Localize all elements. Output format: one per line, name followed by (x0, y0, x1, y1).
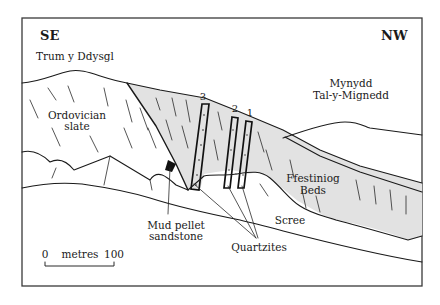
label-sandstone: sandstone (149, 230, 203, 242)
label-scree: Scree (275, 214, 306, 226)
label-beds: Beds (300, 184, 326, 196)
peak-mynydd: Mynydd (330, 77, 373, 89)
scale-start: 0 (42, 248, 49, 260)
direction-nw: NW (381, 28, 408, 43)
scale-end: 100 (104, 248, 124, 260)
peak-trum-y-ddysgl: Trum y Ddysgl (36, 50, 115, 62)
cross-section-svg: SE NW Trum y Ddysgl Mynydd Tal-y-Mignedd… (0, 0, 440, 305)
scale-unit: metres (61, 248, 98, 260)
quartzite-number-1: 1 (247, 107, 253, 118)
geological-cross-section: SE NW Trum y Ddysgl Mynydd Tal-y-Mignedd… (0, 0, 440, 305)
peak-tal-y-mignedd: Tal-y-Mignedd (313, 89, 389, 101)
quartzite-number-3: 3 (200, 91, 206, 102)
label-ffestiniog: Ffestiniog (286, 172, 340, 184)
direction-se: SE (40, 28, 59, 43)
label-slate: slate (64, 120, 89, 132)
label-quartzites: Quartzites (231, 241, 287, 253)
quartzite-number-2: 2 (232, 103, 238, 114)
